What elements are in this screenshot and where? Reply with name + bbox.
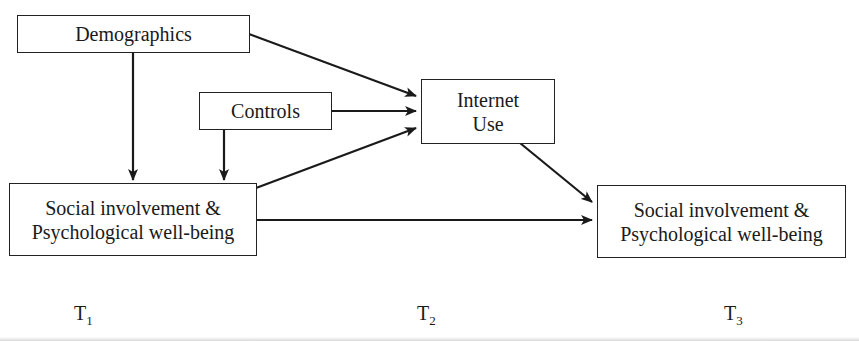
social-wellbeing-t3-line2: Psychological well-being <box>620 222 823 246</box>
internet-use-line2: Use <box>472 112 503 136</box>
arrow-demographics-to-internet <box>249 34 416 96</box>
internet-use-box: Internet Use <box>421 79 555 144</box>
social-wellbeing-t1-line2: Psychological well-being <box>32 220 235 244</box>
controls-box: Controls <box>199 92 332 130</box>
page-edge <box>0 337 859 341</box>
arrow-social-t1-to-internet <box>256 128 416 188</box>
internet-use-line1: Internet <box>457 88 519 112</box>
time-label-t2-base: T <box>417 302 429 324</box>
social-wellbeing-t1-box: Social involvement & Psychological well-… <box>9 183 257 256</box>
arrow-internet-to-social-t3 <box>520 143 592 202</box>
time-label-t3-sub: 3 <box>736 313 743 328</box>
time-label-t2-sub: 2 <box>429 313 436 328</box>
time-label-t1-base: T <box>74 302 86 324</box>
time-label-t2: T2 <box>417 302 436 329</box>
demographics-label: Demographics <box>75 22 192 46</box>
time-label-t3: T3 <box>724 302 743 329</box>
time-label-t1-sub: 1 <box>86 313 93 328</box>
controls-label: Controls <box>231 99 300 123</box>
social-wellbeing-t3-box: Social involvement & Psychological well-… <box>597 185 846 258</box>
social-wellbeing-t1-line1: Social involvement & <box>45 196 221 220</box>
social-wellbeing-t3-line1: Social involvement & <box>634 198 810 222</box>
time-label-t3-base: T <box>724 302 736 324</box>
demographics-box: Demographics <box>17 15 250 53</box>
time-label-t1: T1 <box>74 302 93 329</box>
